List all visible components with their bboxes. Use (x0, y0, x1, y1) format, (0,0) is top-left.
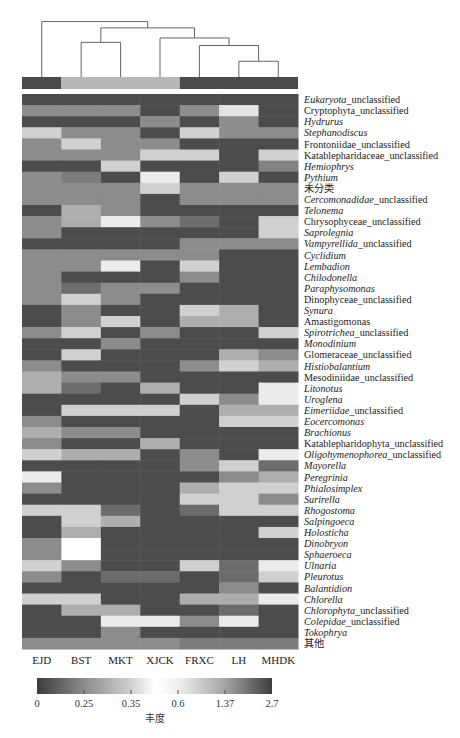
heatmap-cell (101, 105, 141, 117)
heatmap-cell (140, 94, 180, 106)
heatmap-cell (101, 538, 141, 550)
heatmap-cell (22, 294, 62, 306)
row-label: Synura (304, 305, 333, 316)
heatmap-cell (259, 194, 299, 206)
row-label: Holosticha (303, 527, 349, 538)
heatmap-cell (140, 261, 180, 273)
heatmap-cell (180, 594, 220, 606)
heatmap-cell (101, 372, 141, 384)
heatmap-cell (180, 194, 220, 206)
heatmap-cell (22, 638, 62, 650)
heatmap-cell (22, 305, 62, 317)
heatmap-cell (259, 549, 299, 561)
row-label: Litonotus (303, 383, 343, 394)
heatmap-cell (259, 605, 299, 617)
heatmap-cell (140, 616, 180, 628)
heatmap-cell (259, 638, 299, 650)
heatmap-cell (259, 394, 299, 406)
heatmap-cell (140, 416, 180, 428)
heatmap-cell (101, 116, 141, 128)
heatmap-cell (140, 127, 180, 139)
heatmap-cell (22, 327, 62, 339)
heatmap-cell (219, 372, 259, 384)
heatmap-cell (101, 438, 141, 450)
heatmap-cell (22, 627, 62, 639)
heatmap-cell (219, 116, 259, 128)
heatmap-cell (101, 494, 141, 506)
row-label: Pythium (303, 172, 338, 183)
heatmap-cell (101, 360, 141, 372)
row-label: Katablepharidophyta_unclassified (304, 438, 443, 449)
row-label: Brachionus (304, 427, 351, 438)
heatmap-cell (61, 194, 101, 206)
heatmap-cell (22, 438, 62, 450)
heatmap-cell (22, 161, 62, 173)
column-group-segment (61, 77, 179, 89)
heatmap-cell (101, 427, 141, 439)
heatmap-cell (180, 494, 220, 506)
row-label: Tokophrya (304, 627, 347, 638)
colorbar-title: 丰度 (145, 712, 165, 724)
heatmap-cell (259, 161, 299, 173)
heatmap-cell (22, 194, 62, 206)
heatmap-cell (180, 471, 220, 483)
heatmap-cell (259, 305, 299, 317)
heatmap-cell (219, 150, 259, 162)
heatmap-cell (259, 105, 299, 117)
heatmap-cell (180, 638, 220, 650)
heatmap-cell (219, 416, 259, 428)
heatmap-cell (61, 571, 101, 583)
heatmap-cell (140, 338, 180, 350)
heatmap-cell (259, 127, 299, 139)
heatmap-cell (61, 516, 101, 528)
heatmap-cell (259, 527, 299, 539)
heatmap-cell (101, 94, 141, 106)
heatmap-cell (259, 627, 299, 639)
heatmap-cell (259, 594, 299, 606)
heatmap-cell (61, 172, 101, 184)
heatmap-cell (259, 94, 299, 106)
heatmap-cell (219, 161, 259, 173)
heatmap-cell (219, 505, 259, 517)
column-label: EJD (32, 654, 51, 666)
colorbar-tick-label: 0.6 (171, 698, 184, 709)
heatmap-cell (180, 327, 220, 339)
heatmap-cell (140, 549, 180, 561)
row-label: Chlorophyta_unclassified (304, 605, 409, 616)
heatmap-cell (61, 338, 101, 350)
heatmap-cell (101, 261, 141, 273)
heatmap-cell (140, 405, 180, 417)
colorbar-tick-label: 1.37 (216, 698, 234, 709)
heatmap-cell (22, 416, 62, 428)
heatmap-cell (259, 338, 299, 350)
heatmap-cell (61, 471, 101, 483)
colorbar-tick-label: 0.25 (75, 698, 93, 709)
heatmap-cell (101, 327, 141, 339)
heatmap-cell (61, 261, 101, 273)
heatmap-cell (180, 127, 220, 139)
heatmap-cell (22, 538, 62, 550)
row-label: Chrysophyceae_unclassified (304, 216, 421, 227)
row-label: Cercomonadidae_unclassified (304, 194, 428, 205)
heatmap-cell (61, 616, 101, 628)
column-label: BST (71, 654, 91, 666)
heatmap-cell (180, 383, 220, 395)
heatmap-cell (61, 305, 101, 317)
heatmap-cell (180, 172, 220, 184)
heatmap-cell (219, 172, 259, 184)
heatmap-cell (259, 460, 299, 472)
heatmap-cell (22, 205, 62, 217)
row-label: Vampyrellida_unclassified (304, 238, 412, 249)
row-label: Monodinium (303, 338, 356, 349)
column-label: MHDK (261, 654, 295, 666)
heatmap-cell (219, 294, 259, 306)
heatmap-cell (219, 238, 259, 250)
row-label: Eimeriidae_unclassified (303, 405, 403, 416)
heatmap-cell (219, 549, 259, 561)
row-label: Surirella (304, 494, 340, 505)
heatmap-cell (180, 161, 220, 173)
heatmap-cell (219, 249, 259, 261)
heatmap-cell (22, 494, 62, 506)
heatmap-cell (101, 549, 141, 561)
heatmap-cell (180, 605, 220, 617)
